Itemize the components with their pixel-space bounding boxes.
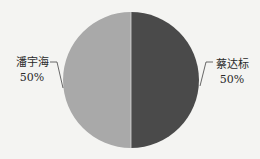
label-right: 蔡达标 50% <box>212 57 252 87</box>
slice-caidabiao <box>131 12 199 148</box>
label-right-pct: 50% <box>212 72 252 87</box>
label-left-pct: 50% <box>12 70 52 85</box>
slice-panyuhai <box>63 12 131 148</box>
label-right-name: 蔡达标 <box>212 57 252 72</box>
label-left: 潘宇海 50% <box>12 55 52 85</box>
label-left-name: 潘宇海 <box>12 55 52 70</box>
